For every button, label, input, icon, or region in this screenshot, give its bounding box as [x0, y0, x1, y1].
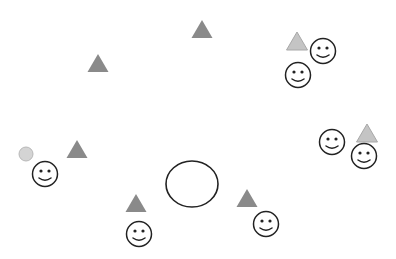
smiley-left-eye — [292, 70, 295, 73]
smiley-right-eye — [268, 219, 271, 222]
smiley-head — [286, 63, 311, 88]
smiley-left-eye — [39, 169, 42, 172]
smiley-left-eye — [260, 219, 263, 222]
dark-triangle-icon — [237, 189, 258, 207]
smiley-head — [127, 222, 152, 247]
smiley-left-eye — [326, 137, 329, 140]
smiley-face-icon — [254, 212, 279, 237]
smiley-face-icon — [127, 222, 152, 247]
dark-triangle-icon — [88, 54, 109, 72]
small-gray-circle-shape — [19, 147, 33, 161]
smiley-face-icon — [286, 63, 311, 88]
smiley-right-eye — [325, 46, 328, 49]
smiley-head — [311, 39, 336, 64]
smiley-right-eye — [141, 229, 144, 232]
smiley-face-icon — [311, 39, 336, 64]
smiley-face-icon — [320, 130, 345, 155]
dark-triangle-icon — [192, 20, 213, 38]
light-triangle-icon — [357, 124, 378, 142]
smiley-head — [33, 162, 58, 187]
smiley-left-eye — [133, 229, 136, 232]
smiley-head — [352, 144, 377, 169]
diagram-canvas — [0, 0, 396, 259]
smiley-head — [254, 212, 279, 237]
dark-triangle-icon — [67, 140, 88, 158]
smiley-right-eye — [366, 151, 369, 154]
dark-triangle-icon — [126, 194, 147, 212]
smiley-face-icon — [33, 162, 58, 187]
large-ellipse-shape — [166, 161, 218, 207]
light-triangle-icon — [287, 32, 308, 50]
smiley-face-icon — [352, 144, 377, 169]
smiley-left-eye — [317, 46, 320, 49]
smiley-head — [320, 130, 345, 155]
smiley-right-eye — [334, 137, 337, 140]
smiley-layer — [33, 39, 377, 247]
smiley-left-eye — [358, 151, 361, 154]
ellipse-layer — [166, 161, 218, 207]
smiley-right-eye — [300, 70, 303, 73]
smiley-right-eye — [47, 169, 50, 172]
small-circle-layer — [19, 147, 33, 161]
